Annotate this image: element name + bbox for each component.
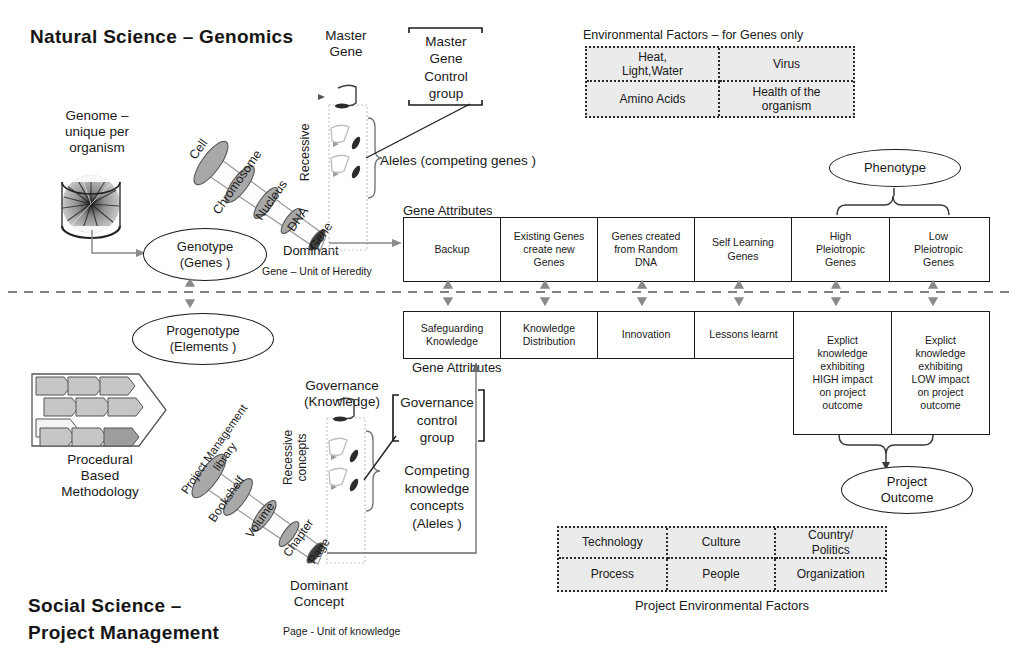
project-environmental-factors-table: TechnologyCultureCountry/ PoliticsProces… xyxy=(557,526,887,592)
project-env-factor-cell-r1c1: People xyxy=(668,559,777,590)
project-env-factor-cell-r0c1: Culture xyxy=(668,528,777,559)
diagram-canvas: Natural Science – Genomics Social Scienc… xyxy=(0,0,1020,668)
project-outcome-ellipse: Project Outcome xyxy=(841,466,973,514)
project-env-factor-cell-r0c2: Country/ Politics xyxy=(776,528,885,559)
project-outcome-brace xyxy=(839,435,933,454)
project-env-factors-caption: Project Environmental Factors xyxy=(557,598,887,613)
project-env-factor-cell-r1c2: Organization xyxy=(776,559,885,590)
project-env-factor-cell-r0c0: Technology xyxy=(559,528,668,559)
project-env-factor-cell-r1c0: Process xyxy=(559,559,668,590)
